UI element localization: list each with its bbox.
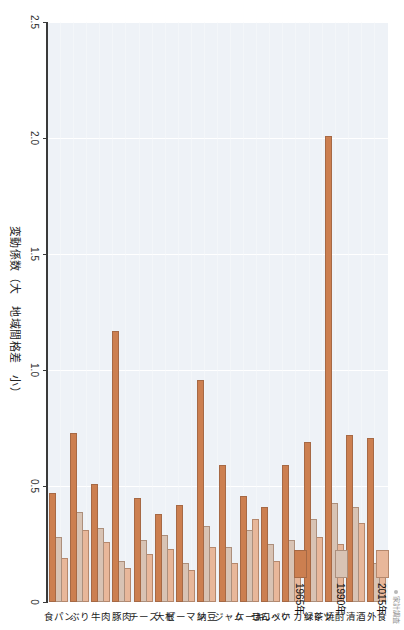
axis-tick: [43, 602, 48, 603]
bar-2015年: [252, 519, 259, 602]
bar-group: [282, 22, 302, 602]
axis-tick-label: 2.0: [29, 131, 40, 145]
bar-group: [176, 22, 196, 602]
bar-group: [219, 22, 239, 602]
axis-tick-label: 1.5: [29, 247, 40, 261]
bar-2015年: [61, 558, 68, 602]
rotated-chart-canvas: 00.51.01.52.02.5 食パンぶり牛肉豚肉チーズ大根ピーマン納豆ジャム…: [0, 0, 404, 630]
legend-swatch: [335, 550, 348, 578]
bar-1965年: [112, 331, 119, 602]
bar-2015年: [231, 563, 238, 602]
axis-tick: [43, 22, 48, 23]
bar-group: [346, 22, 366, 602]
bar-1990年: [76, 512, 83, 602]
bar-2015年: [82, 530, 89, 602]
bar-1965年: [155, 514, 162, 602]
bar-group: [304, 22, 324, 602]
bar-group: [155, 22, 175, 602]
legend-label: 1965年: [293, 583, 308, 615]
bar-group: [261, 22, 281, 602]
bullet-icon: [394, 590, 398, 594]
legend-label: 1990年: [334, 583, 349, 615]
bar-group: [49, 22, 69, 602]
bar-group: [91, 22, 111, 602]
axis-tick: [43, 486, 48, 487]
bar-1965年: [240, 496, 247, 602]
bar-group: [367, 22, 387, 602]
bar-1965年: [219, 465, 226, 602]
category-label: 牛肉: [91, 609, 111, 623]
legend-item[interactable]: 2015年: [375, 550, 390, 624]
axis-tick: [43, 370, 48, 371]
axis-tick: [43, 254, 48, 255]
bar-group: [240, 22, 260, 602]
bar-1965年: [197, 380, 204, 602]
plot-wrapper: 00.51.01.52.02.5 食パンぶり牛肉豚肉チーズ大根ピーマン納豆ジャム…: [0, 0, 404, 630]
chart-legend: 2015年1990年1965年: [267, 550, 390, 624]
bar-1965年: [134, 498, 141, 602]
bar-2015年: [146, 554, 153, 602]
bar-1965年: [325, 136, 332, 602]
bar-1990年: [118, 561, 125, 602]
bar-1965年: [70, 433, 77, 602]
bar-2015年: [209, 547, 216, 602]
bar-1990年: [225, 547, 232, 602]
axis-tick-label: 2.5: [29, 15, 40, 29]
source-text: 家計調査: [393, 596, 400, 624]
bar-group: [325, 22, 345, 602]
bar-1990年: [55, 537, 62, 602]
axis-tick: [43, 138, 48, 139]
bar-2015年: [103, 542, 110, 602]
axis-tick-label: 1.0: [29, 363, 40, 377]
bar-1990年: [246, 530, 253, 602]
bar-1990年: [182, 563, 189, 602]
bar-1965年: [91, 484, 98, 602]
bar-1990年: [203, 526, 210, 602]
legend-swatch: [376, 550, 389, 578]
chart-figure: 00.51.01.52.02.5 食パンぶり牛肉豚肉チーズ大根ピーマン納豆ジャム…: [0, 0, 404, 630]
bar-2015年: [188, 570, 195, 602]
bar-1990年: [140, 540, 147, 602]
bar-group: [134, 22, 154, 602]
axis-tick-label: 0: [29, 599, 40, 605]
bar-1965年: [49, 493, 56, 602]
bar-1990年: [161, 535, 168, 602]
bar-group: [70, 22, 90, 602]
source-note: 家計調査: [392, 590, 402, 624]
bar-1990年: [97, 528, 104, 602]
legend-label: 2015年: [375, 583, 390, 615]
axis-title: 変動係数（大 地域間格差 小）: [8, 22, 24, 602]
category-label: ぶり: [70, 609, 90, 623]
bar-2015年: [124, 568, 131, 602]
legend-item[interactable]: 1990年: [334, 550, 349, 624]
axis-tick-label: 0.5: [29, 479, 40, 493]
legend-swatch: [294, 550, 307, 578]
bar-group: [197, 22, 217, 602]
legend-item[interactable]: 1965年: [293, 550, 308, 624]
bar-1965年: [176, 505, 183, 602]
bar-group: [112, 22, 132, 602]
bar-2015年: [167, 549, 174, 602]
